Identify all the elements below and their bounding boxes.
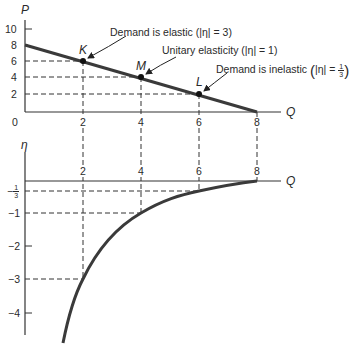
annotation-inelastic-text: Demand is inelastic [216, 63, 307, 75]
eta-axis-label: η [21, 139, 28, 151]
eta-tick-minus-2: −2 [8, 241, 20, 252]
p-tick-10: 10 [5, 24, 17, 35]
q-tick-6-bottom: 6 [196, 166, 202, 177]
eta-tick-minus-4: −4 [8, 308, 20, 319]
p-axis-label: P [21, 4, 29, 16]
origin-label: 0 [12, 117, 18, 128]
q-tick-2-bottom: 2 [80, 166, 86, 177]
point-m [138, 74, 144, 80]
point-l-label: L [196, 76, 203, 88]
elasticity-diagram: P 10 8 6 4 2 0 2 4 6 8 Q K M L Demand is… [0, 0, 361, 349]
q-tick-8-bottom: 8 [254, 166, 260, 177]
annotation-inelastic: Demand is inelastic (|η| = 13) [216, 63, 349, 78]
arrow-elastic [88, 36, 126, 58]
q-axis-label-top: Q [286, 106, 295, 118]
q-tick-4-bottom: 4 [138, 166, 144, 177]
annotation-inelastic-eta: |η| = [315, 63, 335, 75]
q-tick-4-top: 4 [138, 117, 144, 128]
q-tick-6-top: 6 [196, 117, 202, 128]
p-tick-4: 4 [11, 72, 17, 83]
point-m-label: M [136, 60, 146, 72]
annotation-unitary: Unitary elasticity (|η| = 1) [162, 45, 277, 56]
eta-tick-minus-third: −13 [7, 184, 19, 199]
q-axis-label-bottom: Q [286, 175, 295, 187]
eta-tick-minus-3: −3 [8, 274, 20, 285]
p-tick-8: 8 [11, 40, 17, 51]
p-axis-ticks [25, 29, 32, 45]
p-tick-6: 6 [11, 56, 17, 67]
elasticity-curve [63, 181, 257, 343]
point-k-label: K [79, 44, 87, 56]
eta-tick-minus-1: −1 [8, 208, 20, 219]
q-tick-8-top: 8 [254, 117, 260, 128]
annotation-elastic: Demand is elastic (|η| = 3) [110, 27, 232, 38]
arrow-unitary [146, 57, 176, 74]
q-tick-2-top: 2 [80, 117, 86, 128]
point-k [80, 58, 86, 64]
p-tick-2: 2 [11, 89, 17, 100]
point-l [196, 91, 202, 97]
